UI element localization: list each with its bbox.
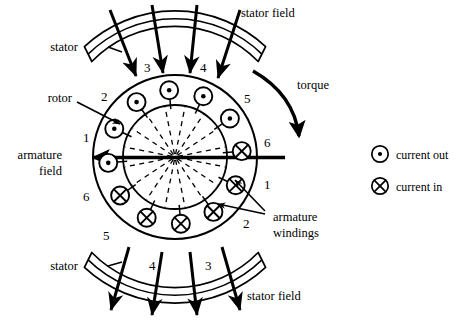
legend: current out current in	[372, 146, 449, 194]
stator-top-label: stator	[50, 40, 79, 54]
armature-winding-1-in	[233, 142, 251, 160]
current-out-icon-dot	[112, 126, 117, 131]
diagram-canvas: stator stator stator field stator field …	[0, 0, 466, 325]
armature-windings-label-line2: windings	[273, 226, 319, 240]
pole-number-bottom-3: 3	[205, 258, 212, 273]
armature-winding-6-in	[111, 186, 129, 204]
winding-number-ur-5: 5	[244, 91, 251, 106]
winding-number-ll-5: 5	[103, 228, 110, 243]
armature-winding-2-out	[128, 93, 146, 111]
stator-bottom	[84, 253, 265, 304]
armature-winding-2-in	[227, 176, 245, 194]
armature-winding-4-out	[194, 87, 212, 105]
current-out-icon-dot	[134, 100, 139, 105]
motor-cross-section-diagram: stator stator stator field stator field …	[0, 0, 466, 325]
legend-label-current-in: current in	[396, 180, 442, 194]
winding-number-ll-6: 6	[83, 189, 90, 204]
stator-field-bottom-label: stator field	[247, 289, 302, 303]
torque-label: torque	[297, 78, 329, 92]
armature-winding-5-out	[221, 110, 239, 128]
current-out-icon-dot	[228, 116, 233, 121]
winding-number-ur-6: 6	[264, 135, 271, 150]
current-out-icon-dot	[201, 94, 206, 99]
winding-number-ul-1: 1	[83, 130, 90, 145]
legend-item-current-out: current out	[372, 146, 449, 162]
armature-winding-3-in	[204, 203, 222, 221]
armature-winding-5-in	[138, 209, 156, 227]
rotor-label: rotor	[48, 91, 73, 105]
pole-number-top-3: 3	[144, 60, 151, 75]
armature-field-label-line1: armature	[18, 148, 63, 162]
stator-top-leader-line	[108, 47, 122, 52]
armature-winding-1-out	[105, 120, 123, 138]
winding-number-lr-2: 2	[243, 216, 250, 231]
pole-number-top-4: 4	[200, 60, 207, 75]
armature-winding-4-in	[172, 215, 190, 233]
armature-winding-6-out	[99, 154, 117, 172]
current-out-icon-dot	[106, 161, 111, 166]
torque-arrow	[253, 71, 299, 136]
stator-bottom-leader-line	[108, 262, 122, 266]
winding-number-lr-1: 1	[264, 177, 271, 192]
armature-field-label-line2: field	[39, 164, 63, 178]
current-out-icon-dot	[167, 88, 172, 93]
current-out-icon-dot	[378, 152, 382, 156]
stator-field-top-label: stator field	[241, 6, 296, 20]
winding-number-ul-2: 2	[101, 89, 108, 104]
armature-windings-label-line1: armature	[273, 210, 318, 224]
legend-item-current-in: current in	[372, 178, 443, 194]
armature-winding-3-out	[160, 81, 178, 99]
legend-label-current-out: current out	[396, 148, 449, 162]
stator-bottom-label: stator	[50, 259, 79, 273]
pole-number-bottom-4: 4	[149, 258, 156, 273]
